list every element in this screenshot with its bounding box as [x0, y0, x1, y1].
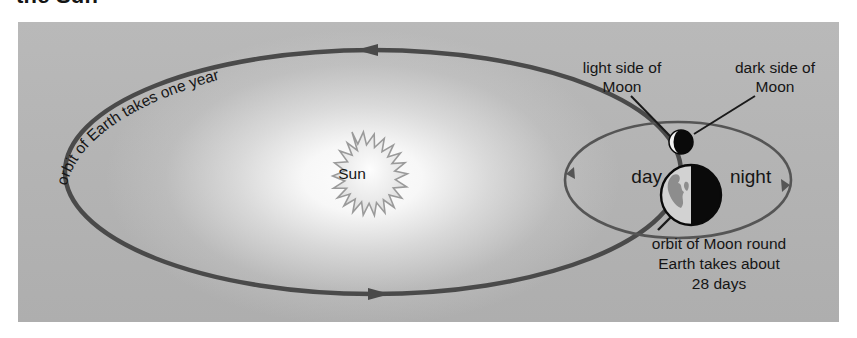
earth-graphic [661, 165, 721, 225]
diagram-page: the Sun Sun [0, 0, 857, 338]
light-side-leader-line [631, 96, 670, 136]
earth-orbit-arrow-top-icon [356, 44, 378, 56]
night-label: night [730, 167, 804, 186]
sun-graphic: Sun [333, 132, 408, 216]
dark-side-of-moon-label: dark side of Moon [712, 58, 838, 96]
page-heading: the Sun [16, 0, 98, 9]
moon-orbit-caption: orbit of Moon round Earth takes about 28… [626, 234, 812, 294]
earth-orbit-arrow-bottom-icon [368, 288, 390, 300]
light-side-of-moon-label: light side of Moon [558, 58, 686, 96]
day-label: day [600, 167, 662, 186]
moon-graphic [669, 130, 693, 154]
sun-label: Sun [338, 165, 366, 182]
diagram-panel: Sun [18, 22, 839, 322]
dark-side-leader-line [694, 96, 755, 134]
